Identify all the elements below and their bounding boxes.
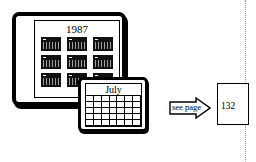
dotted-margin-rule <box>245 0 246 162</box>
mini-month-icon <box>41 37 61 51</box>
month-day-grid <box>86 96 141 126</box>
mini-month-icon <box>93 55 113 69</box>
month-calendar-page: July <box>85 83 142 127</box>
mini-month-icon <box>41 73 61 87</box>
mini-month-icon <box>93 37 113 51</box>
page-number: 132 <box>221 101 235 111</box>
mini-month-icon <box>41 55 61 69</box>
mini-month-icon <box>67 37 87 51</box>
see-page-label: see page <box>172 102 201 112</box>
month-calendar-icon: July <box>78 77 148 132</box>
month-label: July <box>86 84 141 96</box>
year-label: 1987 <box>35 23 119 35</box>
mini-month-icon <box>67 55 87 69</box>
